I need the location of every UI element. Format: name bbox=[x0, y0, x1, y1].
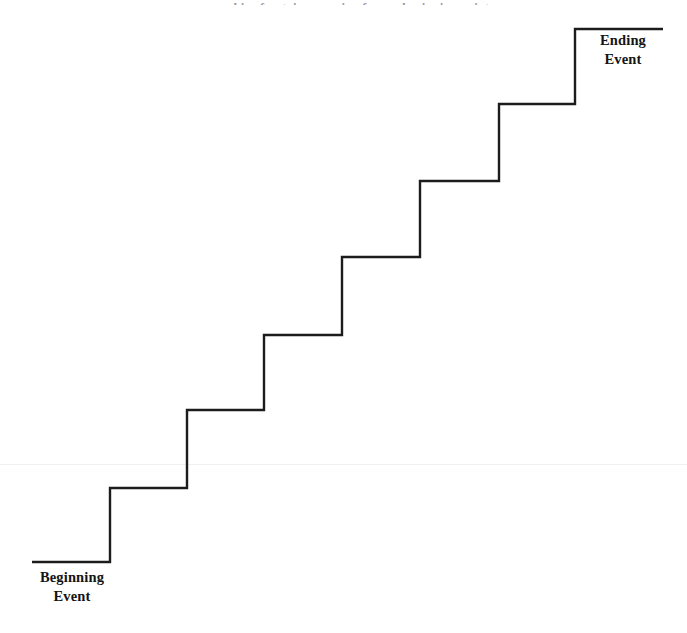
beginning-event-label-line-1: Beginning bbox=[24, 568, 120, 587]
staircase-path-graphic bbox=[0, 0, 687, 633]
staircase-diagram: a graphic of a staircase going from a be… bbox=[0, 0, 687, 633]
ending-event-label-line-1: Ending bbox=[580, 31, 666, 50]
ending-event-label: Ending Event bbox=[580, 31, 666, 68]
beginning-event-label: Beginning Event bbox=[24, 568, 120, 605]
beginning-event-label-line-2: Event bbox=[24, 587, 120, 606]
staircase-polyline bbox=[32, 29, 663, 562]
ending-event-label-line-2: Event bbox=[580, 50, 666, 69]
